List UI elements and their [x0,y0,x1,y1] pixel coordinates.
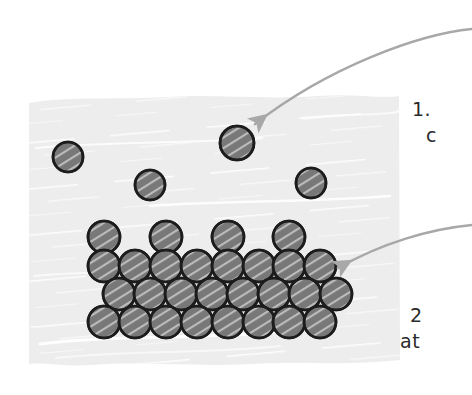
lattice-atom-bulk-row-2-2 [119,306,151,338]
lattice-atom-bulk-row-1-8 [320,278,352,310]
callout-label-1-line1: 1. [412,96,437,122]
lattice-atom-bulk-row-2-6 [243,306,275,338]
free-atom-1 [53,142,83,172]
callout-label-2-line2: at [400,328,423,354]
lattice-atom-adatom-row-3 [212,221,244,253]
lattice-atom-bulk-row-2-8 [304,306,336,338]
lattice-atom-adatom-row-4 [273,221,305,253]
free-atom-4 [296,168,326,198]
lattice-atom-bulk-row-2-3 [150,306,182,338]
lattice-atom-adatom-row-1 [88,221,120,253]
callout-label-1: 1. c [412,96,437,148]
lattice-atom-bulk-row-2-4 [181,306,213,338]
callout-label-2-line1: 2 [410,302,423,328]
lattice-atom-adatom-row-2 [150,221,182,253]
figure-canvas: 1. c 2 at [0,0,472,395]
callout-label-1-line2: c [412,122,437,148]
free-atom-3 [220,126,254,160]
lattice-atom-bulk-row-2-7 [273,306,305,338]
free-atom-2 [135,170,165,200]
callout-label-2: 2 at [410,302,423,354]
lattice-atom-bulk-row-2-5 [212,306,244,338]
lattice-atom-bulk-row-2-1 [88,306,120,338]
